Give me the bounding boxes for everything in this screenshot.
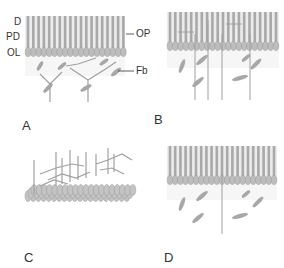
panel-d-illustration	[142, 134, 284, 268]
panel-a: D PD OL OP Fb A	[0, 0, 142, 134]
panel-label-c: C	[24, 250, 33, 265]
panel-label-a: A	[22, 118, 31, 133]
panel-d: D	[142, 134, 284, 268]
panel-a-illustration	[0, 0, 142, 134]
panel-label-d: D	[164, 250, 173, 265]
panel-b-illustration	[142, 0, 284, 134]
panel-c: C	[0, 134, 142, 268]
panel-c-illustration	[0, 134, 142, 268]
panel-b: B	[142, 0, 284, 134]
panel-label-b: B	[154, 112, 163, 127]
